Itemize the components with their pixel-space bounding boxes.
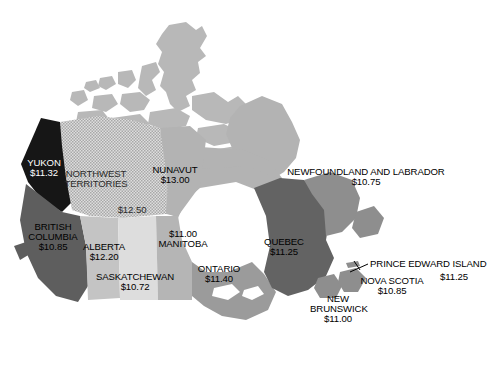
canada-minimum-wage-map: YUKON $11.32 NORTHWEST TERRITORIES $12.5… (0, 0, 493, 365)
region-saskatchewan[interactable] (118, 216, 158, 300)
canada-map-svg (0, 0, 493, 365)
region-northwest-territories[interactable] (60, 116, 168, 218)
